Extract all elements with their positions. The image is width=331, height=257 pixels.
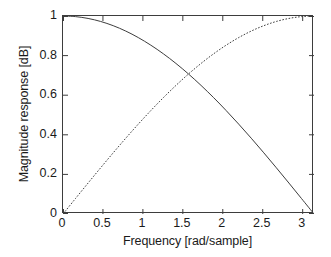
- y-tick-label: 0.2: [17, 167, 57, 179]
- x-tick-label: 0: [42, 216, 82, 230]
- x-tick-label: 1.5: [162, 216, 202, 230]
- data-series: [63, 16, 314, 214]
- x-tick-label: 2: [202, 216, 242, 230]
- x-axis-label: Frequency [rad/sample]: [62, 234, 313, 249]
- x-tick-label: 0.5: [82, 216, 122, 230]
- x-tick-label: 2.5: [242, 216, 282, 230]
- x-tick-label: 1: [122, 216, 162, 230]
- chart-figure: Magnitude response [dB] 00.20.40.60.81 0…: [0, 0, 331, 257]
- series-line-highpass: [63, 16, 314, 214]
- y-tick-label: 0.6: [17, 88, 57, 100]
- plot-area: [62, 15, 313, 213]
- y-axis-label: Magnitude response [dB]: [16, 15, 32, 213]
- y-tick-label: 0.8: [17, 49, 57, 61]
- y-tick-label: 1: [17, 9, 57, 21]
- plot-canvas: [63, 16, 314, 214]
- tick-marks: [63, 16, 314, 214]
- series-line-lowpass: [63, 16, 314, 214]
- y-tick-label: 0.4: [17, 128, 57, 140]
- x-tick-label: 3: [282, 216, 322, 230]
